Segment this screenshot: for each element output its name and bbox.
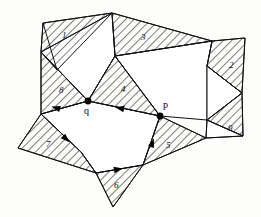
diagram-canvas: 1 2 3 4 5 6 7 8 9 q p	[0, 0, 261, 217]
region-label-9: 9	[228, 123, 233, 133]
region-label-1: 1	[62, 30, 67, 40]
region-label-5: 5	[166, 140, 171, 150]
region-label-8: 8	[59, 85, 64, 95]
region-label-4: 4	[121, 84, 126, 94]
vertex-dot-q[interactable]	[85, 98, 92, 105]
point-label-p: p	[163, 99, 168, 110]
region-label-3: 3	[140, 32, 146, 42]
vertex-dot-p[interactable]	[157, 113, 164, 120]
geometry-figure: 1 2 3 4 5 6 7 8 9 q p	[0, 0, 261, 217]
region-label-2: 2	[229, 60, 234, 70]
region-label-7: 7	[46, 139, 51, 149]
region-label-6: 6	[114, 180, 119, 190]
point-label-q: q	[84, 105, 89, 116]
